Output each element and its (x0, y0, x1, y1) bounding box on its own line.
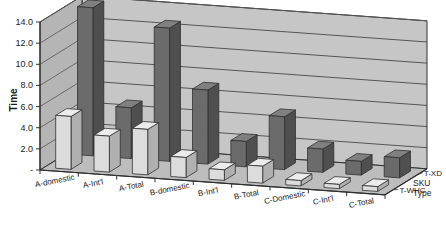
category-axis-label: B-Total (233, 188, 259, 202)
bar-front-face (362, 186, 377, 192)
bar-front-face (209, 169, 224, 181)
value-axis-tick-label: 12.0 (15, 38, 33, 48)
value-axis-tick-label: 14.0 (15, 17, 33, 27)
bar-front-face (132, 128, 147, 175)
bar-side-face (170, 21, 181, 161)
series-depth-label: T-XD (424, 169, 442, 178)
depth-axis-title-line1: SKU (413, 178, 430, 188)
value-axis-tick-label: 8.0 (20, 80, 33, 90)
bar-side-face (109, 129, 120, 172)
bar-side-face (285, 110, 296, 170)
depth-axis-title-line2: Type (413, 188, 432, 198)
bar-front-face (384, 157, 399, 178)
bar-front-face (94, 135, 109, 172)
bar (56, 109, 82, 170)
category-axis-label: A-Total (118, 180, 144, 194)
bar-side-face (208, 83, 219, 164)
category-axis-label: C-Int'l (312, 194, 334, 207)
value-axis-tick-label: 2.0 (20, 144, 33, 154)
chart-container: -2.04.06.08.010.012.014.0 A-domesticA-In… (0, 0, 446, 231)
category-axis-label: A-Int'l (82, 177, 104, 190)
category-axis-label: A-domestic (34, 173, 75, 189)
bar-front-face (324, 183, 339, 188)
bar (132, 122, 158, 175)
bar-front-face (346, 160, 361, 175)
category-axis-label: B-domestic (149, 181, 190, 197)
bar-front-face (286, 180, 301, 186)
value-axis-tick-label: 10.0 (15, 59, 33, 69)
bar (94, 128, 120, 172)
value-axis-tick-label: - (30, 165, 33, 175)
category-axis-label: C-Total (348, 196, 375, 210)
bar-front-face (308, 148, 323, 172)
bar-front-face (171, 156, 186, 177)
bar (171, 150, 197, 178)
bar-front-face (247, 165, 262, 183)
category-axis-label: B-Int'l (197, 186, 219, 199)
bar-side-face (71, 110, 82, 170)
value-axis-tick-label: 6.0 (20, 102, 33, 112)
category-axis-label: C-Domestic (263, 189, 306, 206)
bar (308, 141, 334, 172)
value-axis-tick-label: 4.0 (20, 123, 33, 133)
bar-side-face (148, 123, 159, 175)
value-axis-title: Time (8, 88, 19, 112)
bar-chart-3d: -2.04.06.08.010.012.014.0 A-domesticA-In… (0, 0, 446, 231)
bar-front-face (56, 115, 71, 169)
bar (384, 150, 410, 178)
